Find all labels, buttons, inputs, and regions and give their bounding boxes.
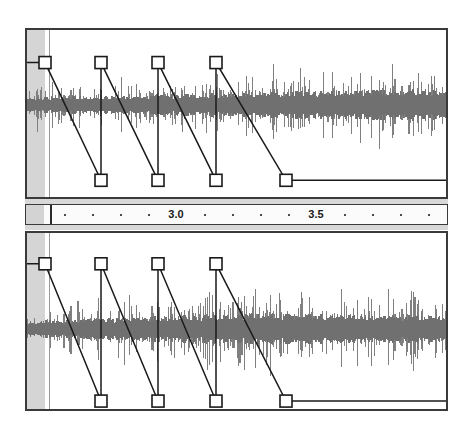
audio-editor-window: 3.03.5 — [0, 0, 470, 435]
ruler-tick-dot — [204, 214, 206, 216]
ruler-tick-dot — [400, 214, 402, 216]
envelope-handle-5[interactable] — [95, 395, 107, 407]
envelope-handle-4[interactable] — [210, 57, 222, 69]
ruler-tick-dot — [92, 214, 94, 216]
envelope-handle-4[interactable] — [210, 258, 222, 270]
ruler-selection[interactable] — [26, 205, 44, 224]
envelope-handle-5[interactable] — [95, 174, 107, 186]
envelope-handle-8[interactable] — [280, 174, 292, 186]
ruler-tick-dot — [148, 214, 150, 216]
track-1-content — [27, 30, 446, 197]
envelope-overlay-track-2[interactable] — [27, 233, 446, 409]
waveform-track-2[interactable] — [25, 231, 448, 411]
envelope-handle-6[interactable] — [152, 395, 164, 407]
ruler-tick-dot — [372, 214, 374, 216]
envelope-handle-1[interactable] — [39, 57, 51, 69]
envelope-handle-2[interactable] — [95, 258, 107, 270]
ruler-tick-dot — [64, 214, 66, 216]
envelope-handle-7[interactable] — [210, 174, 222, 186]
envelope-handle-6[interactable] — [152, 174, 164, 186]
envelope-handle-8[interactable] — [280, 395, 292, 407]
ruler-tick-dot — [428, 214, 430, 216]
envelope-handle-2[interactable] — [95, 57, 107, 69]
envelope-overlay-track-1[interactable] — [27, 30, 446, 197]
envelope-handle-3[interactable] — [152, 258, 164, 270]
track-2-content — [27, 233, 446, 409]
ruler-tick-dot — [288, 214, 290, 216]
ruler-time-label: 3.0 — [168, 207, 183, 222]
ruler-band: 3.03.5 — [25, 199, 448, 230]
envelope-handle-3[interactable] — [152, 57, 164, 69]
ruler-time-label: 3.5 — [308, 207, 323, 222]
ruler-tick-dot — [232, 214, 234, 216]
ruler-tick-dot — [120, 214, 122, 216]
envelope-handle-1[interactable] — [39, 258, 51, 270]
ruler-tick-dot — [344, 214, 346, 216]
ruler-cursor[interactable] — [50, 205, 52, 224]
ruler-tick-dot — [260, 214, 262, 216]
timeline-ruler[interactable]: 3.03.5 — [25, 204, 448, 225]
envelope-handle-7[interactable] — [210, 395, 222, 407]
waveform-track-1[interactable] — [25, 28, 448, 199]
